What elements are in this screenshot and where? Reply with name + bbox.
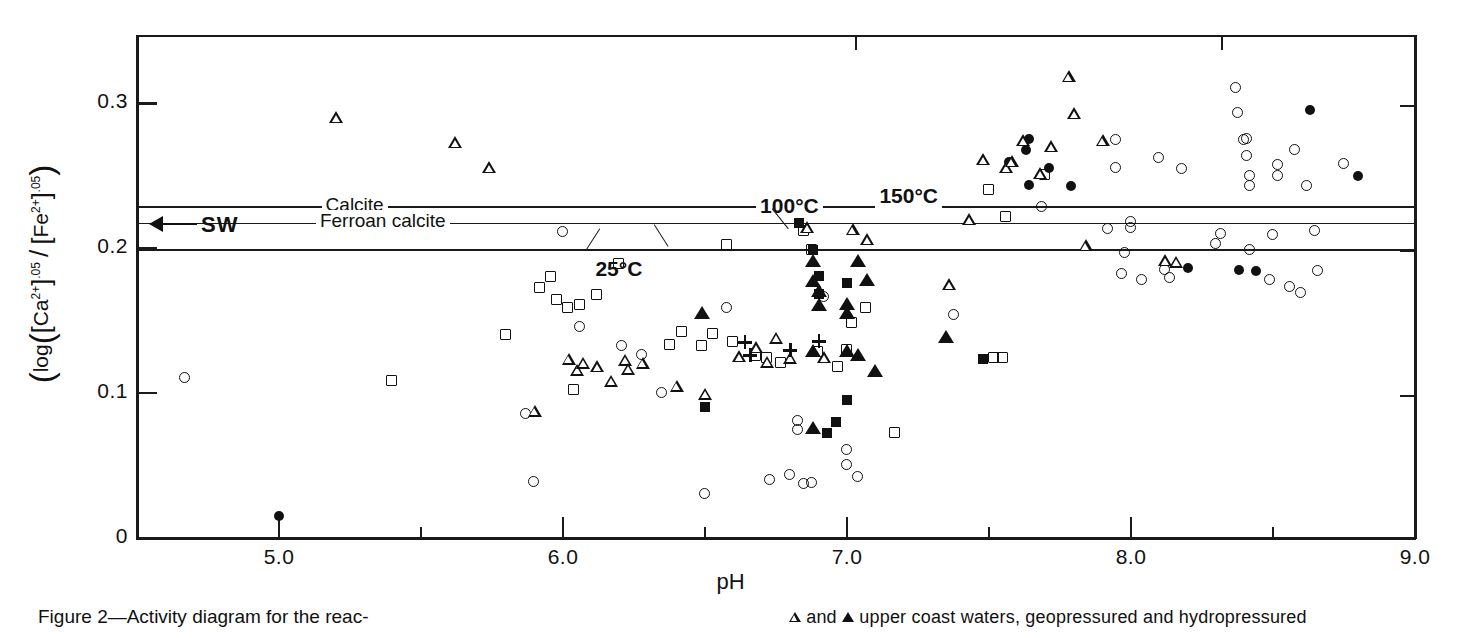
data-point-open-triangle	[1062, 70, 1076, 82]
data-point-open-circle	[1125, 222, 1136, 233]
annotation-100-c: 100°C	[756, 194, 823, 218]
data-point-open-circle	[764, 474, 775, 485]
data-point-open-square	[721, 239, 732, 250]
data-point-open-circle	[1289, 144, 1300, 155]
x-tick-label-7.0: 7.0	[812, 545, 882, 569]
data-point-open-square	[613, 258, 624, 269]
data-point-open-circle	[1164, 272, 1175, 283]
right-frame-tick	[1400, 105, 1416, 107]
plot-top-border	[136, 35, 1416, 37]
data-point-open-triangle	[528, 405, 542, 417]
data-point-open-triangle	[1044, 140, 1058, 152]
data-point-open-circle	[1241, 150, 1252, 161]
x-minor-tick	[420, 527, 422, 539]
data-point-filled-square	[842, 395, 852, 405]
data-point-open-circle	[1309, 225, 1320, 236]
data-point-open-triangle	[698, 388, 712, 400]
data-point-open-circle	[1215, 228, 1226, 239]
data-point-open-circle	[574, 321, 585, 332]
data-point-open-circle	[1338, 158, 1349, 169]
data-point-open-triangle	[760, 356, 774, 368]
legend-label: and upper coast waters, geopressured and…	[806, 607, 1307, 627]
data-point-open-square	[707, 328, 718, 339]
data-point-open-square	[562, 302, 573, 313]
data-point-open-square	[664, 339, 675, 350]
top-frame-tick	[1221, 36, 1223, 50]
x-minor-tick	[704, 527, 706, 539]
data-point-filled-circle	[1021, 145, 1031, 155]
data-point-filled-triangle	[811, 298, 827, 311]
y-tick-0.3	[137, 102, 157, 104]
data-point-plus	[738, 335, 752, 349]
data-point-open-triangle	[1033, 167, 1047, 179]
data-point-open-square	[551, 294, 562, 305]
data-point-open-circle	[528, 476, 539, 487]
y-tick-0.1	[137, 392, 157, 394]
data-point-open-circle	[806, 477, 817, 488]
x-tick-6.0	[562, 517, 564, 539]
filled-triangle-icon	[842, 612, 854, 622]
data-point-open-circle	[1153, 152, 1164, 163]
data-point-filled-triangle	[805, 254, 821, 267]
data-point-filled-circle	[1024, 180, 1034, 190]
data-point-filled-triangle	[839, 306, 855, 319]
data-point-open-triangle	[962, 213, 976, 225]
data-point-filled-circle	[274, 511, 284, 521]
ref-line-ferroan-calcite-25C	[137, 249, 1415, 251]
y-tick-label-0: 0	[68, 524, 128, 548]
data-point-open-triangle	[1169, 256, 1183, 268]
data-point-open-triangle	[976, 153, 990, 165]
x-tick-label-9.0: 9.0	[1380, 545, 1450, 569]
data-point-filled-circle	[1251, 266, 1261, 276]
data-point-open-square	[696, 340, 707, 351]
data-point-open-circle	[1119, 247, 1130, 258]
data-point-open-square	[727, 336, 738, 347]
x-tick-label-6.0: 6.0	[528, 545, 598, 569]
x-tick-label-8.0: 8.0	[1096, 545, 1166, 569]
data-point-open-triangle	[769, 332, 783, 344]
data-point-plus	[812, 334, 826, 348]
data-point-filled-triangle	[850, 348, 866, 361]
data-point-open-square	[545, 271, 556, 282]
data-point-open-circle	[1232, 107, 1243, 118]
data-point-open-circle	[1301, 180, 1312, 191]
x-axis-line	[136, 537, 1416, 540]
y-tick-label-0.3: 0.3	[68, 89, 128, 113]
data-point-filled-circle	[1066, 181, 1076, 191]
data-point-open-circle	[1110, 162, 1121, 173]
x-tick-9.0	[1414, 517, 1416, 539]
data-point-filled-circle	[1353, 171, 1363, 181]
data-point-open-circle	[1036, 201, 1047, 212]
data-point-plus	[783, 343, 797, 357]
data-point-open-circle	[1244, 244, 1255, 255]
data-point-open-square	[574, 299, 585, 310]
data-point-open-circle	[1264, 274, 1275, 285]
annotation-150-c: 150°C	[875, 184, 942, 208]
data-point-filled-square	[831, 417, 841, 427]
x-tick-label-5.0: 5.0	[244, 545, 314, 569]
data-point-open-square	[1000, 211, 1011, 222]
data-point-open-triangle	[942, 278, 956, 290]
data-point-open-triangle	[636, 357, 650, 369]
data-point-open-square	[534, 282, 545, 293]
data-point-open-triangle	[1096, 134, 1110, 146]
plot-right-border	[1414, 35, 1417, 539]
data-point-open-circle	[1267, 229, 1278, 240]
data-point-open-triangle	[846, 223, 860, 235]
open-triangle-icon	[789, 612, 801, 622]
data-point-open-triangle	[448, 136, 462, 148]
x-minor-tick	[988, 527, 990, 539]
data-point-open-square	[500, 329, 511, 340]
data-point-open-circle	[1241, 133, 1252, 144]
data-point-filled-triangle	[859, 273, 875, 286]
data-point-open-circle	[1210, 238, 1221, 249]
data-point-filled-circle	[1183, 263, 1193, 273]
data-point-open-circle	[841, 444, 852, 455]
data-point-open-circle	[1110, 134, 1121, 145]
annotation-leader-line	[653, 224, 668, 247]
data-point-open-square	[591, 289, 602, 300]
data-point-open-triangle	[576, 357, 590, 369]
data-point-open-square	[386, 375, 397, 386]
data-point-open-triangle	[1079, 239, 1093, 251]
data-point-open-circle	[1312, 265, 1323, 276]
